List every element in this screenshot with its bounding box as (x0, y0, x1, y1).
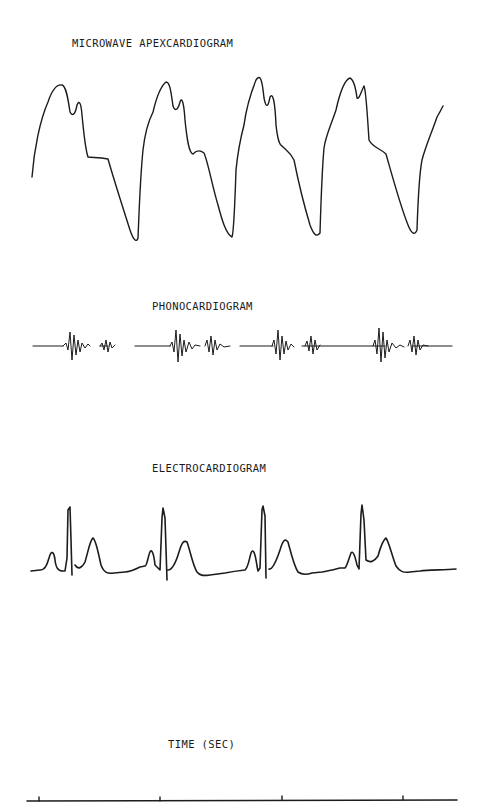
cardiogram-traces (0, 0, 500, 807)
time-axis-baseline (27, 800, 457, 801)
electrocardiogram-trace (31, 505, 456, 580)
apexcardiogram-trace (32, 77, 443, 240)
phonocardiogram-s1-bursts (63, 328, 404, 362)
